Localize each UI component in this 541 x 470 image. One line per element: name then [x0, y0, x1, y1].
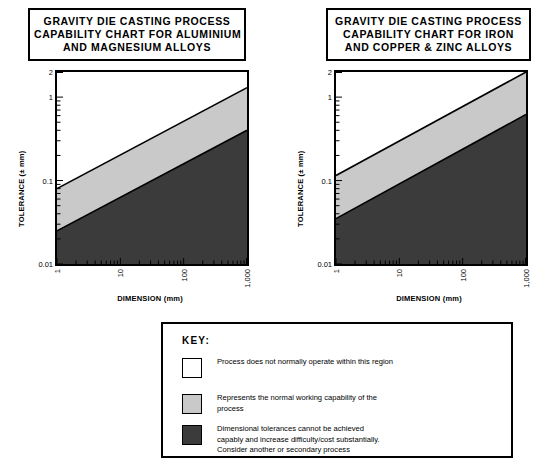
- plot-area-iron-copper-zinc: [334, 70, 528, 266]
- capability-chart-aluminium: TOLERANCE (± mm) DIMENSION (mm) 0.010.11…: [0, 62, 270, 312]
- y-tick-label: 1: [304, 93, 332, 102]
- chart-title-iron-copper-zinc: GRAVITY DIE CASTING PROCESS CAPABILITY C…: [326, 8, 531, 61]
- y-axis-title: TOLERANCE (± mm): [296, 151, 305, 227]
- chart-title-aluminium: GRAVITY DIE CASTING PROCESS CAPABILITY C…: [28, 8, 246, 61]
- plot-regions-aluminium: [57, 72, 247, 264]
- key-item-light-gray: Represents the normal working capability…: [182, 393, 377, 414]
- x-tick-label: 10: [116, 269, 125, 277]
- plot-area-aluminium: [55, 70, 249, 266]
- plot-regions-iron-copper-zinc: [336, 72, 526, 264]
- x-axis-title: DIMENSION (mm): [334, 294, 524, 303]
- key-item-white: Process does not normally operate within…: [182, 357, 393, 378]
- title-line: AND COPPER & ZINC ALLOYS: [332, 41, 525, 54]
- key-item-label: Dimensional tolerances cannot be achieve…: [217, 424, 380, 456]
- key-legend-box: KEY: Process does not normally operate w…: [161, 322, 513, 458]
- x-axis-title: DIMENSION (mm): [55, 294, 245, 303]
- x-tick-label: 1,000: [243, 269, 252, 288]
- title-line: AND MAGNESIUM ALLOYS: [34, 41, 240, 54]
- x-tick-label: 10: [395, 269, 404, 277]
- y-tick-label: 0.01: [304, 260, 332, 269]
- y-tick-label: 0.01: [25, 260, 53, 269]
- title-line: CAPABILITY CHART FOR ALUMINIUM: [34, 28, 240, 41]
- key-swatch-light-gray: [182, 394, 202, 414]
- y-tick-label: 0.1: [304, 176, 332, 185]
- x-tick-label: 1,000: [522, 269, 531, 288]
- key-item-label: Represents the normal working capability…: [217, 393, 377, 414]
- y-tick-label: 0.1: [25, 176, 53, 185]
- key-swatch-dark-gray: [182, 425, 202, 445]
- key-swatch-white: [182, 358, 202, 378]
- key-item-label: Process does not normally operate within…: [217, 357, 393, 368]
- title-line: GRAVITY DIE CASTING PROCESS: [332, 15, 525, 28]
- x-tick-label: 100: [458, 269, 467, 282]
- x-tick-label: 1: [332, 269, 341, 273]
- x-tick-label: 1: [53, 269, 62, 273]
- title-line: CAPABILITY CHART FOR IRON: [332, 28, 525, 41]
- y-tick-label: 2: [25, 68, 53, 77]
- y-axis-title: TOLERANCE (± mm): [17, 151, 26, 227]
- key-item-dark-gray: Dimensional tolerances cannot be achieve…: [182, 424, 380, 456]
- y-tick-label: 1: [25, 93, 53, 102]
- x-tick-label: 100: [179, 269, 188, 282]
- y-tick-label: 2: [304, 68, 332, 77]
- key-heading: KEY:: [182, 335, 210, 346]
- capability-chart-iron-copper-zinc: TOLERANCE (± mm) DIMENSION (mm) 0.010.11…: [280, 62, 541, 312]
- title-line: GRAVITY DIE CASTING PROCESS: [34, 15, 240, 28]
